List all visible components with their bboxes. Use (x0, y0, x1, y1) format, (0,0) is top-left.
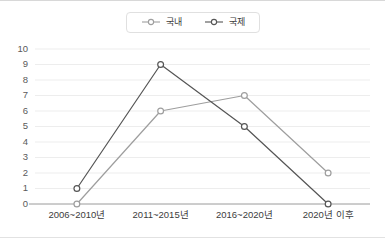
data-point-marker[interactable] (158, 108, 164, 114)
x-axis-tick-labels: 2006~2010년2011~2015년2016~2020년2020년 이후 (48, 209, 353, 220)
chart-figure: 국내 국제 012345678910 2006~2010년2011~2015년2… (0, 0, 385, 238)
data-series (74, 62, 331, 207)
y-tick-label: 0 (23, 198, 28, 209)
x-tick-label: 2011~2015년 (133, 209, 189, 220)
data-point-marker[interactable] (325, 201, 331, 207)
series-line-0 (77, 96, 328, 205)
series-line-1 (77, 65, 328, 205)
data-point-marker[interactable] (158, 62, 164, 68)
y-tick-label: 8 (23, 74, 28, 85)
y-axis-tick-labels: 012345678910 (17, 43, 28, 209)
x-tick-label: 2006~2010년 (48, 209, 105, 220)
y-tick-label: 5 (23, 120, 28, 131)
chart-canvas: 012345678910 2006~2010년2011~2015년2016~20… (0, 1, 385, 238)
data-point-marker[interactable] (74, 186, 80, 192)
data-point-marker[interactable] (241, 124, 247, 130)
y-tick-label: 9 (23, 58, 28, 69)
x-tick-label: 2020년 이후 (303, 209, 354, 220)
data-point-marker[interactable] (241, 93, 247, 99)
y-tick-label: 2 (23, 167, 28, 178)
x-tick-label: 2016~2020년 (216, 209, 273, 220)
data-point-marker[interactable] (74, 201, 80, 207)
y-tick-label: 3 (23, 151, 28, 162)
gridlines (35, 49, 370, 189)
y-tick-label: 10 (17, 43, 28, 54)
y-tick-label: 4 (23, 136, 28, 147)
y-tick-label: 7 (23, 89, 28, 100)
plot-area: 012345678910 2006~2010년2011~2015년2016~20… (0, 1, 385, 238)
data-point-marker[interactable] (325, 170, 331, 176)
y-tick-label: 1 (23, 182, 28, 193)
y-tick-label: 6 (23, 105, 28, 116)
